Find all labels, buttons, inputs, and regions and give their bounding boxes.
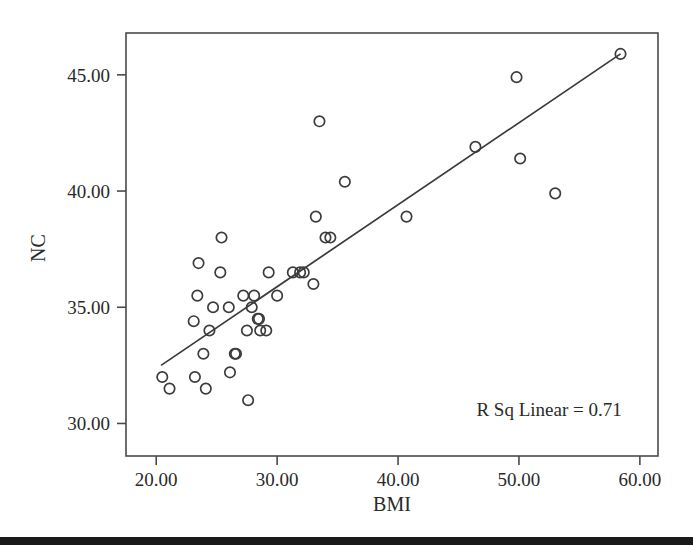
data-point xyxy=(401,211,411,221)
data-point xyxy=(216,232,226,242)
x-tick-label: 50.00 xyxy=(498,469,541,490)
data-point xyxy=(272,290,282,300)
data-point xyxy=(314,116,324,126)
y-axis-title: NC xyxy=(27,234,49,262)
data-point xyxy=(189,316,199,326)
data-point xyxy=(225,367,235,377)
data-point xyxy=(198,349,208,359)
r-squared-annotation: R Sq Linear = 0.71 xyxy=(476,399,621,420)
data-point xyxy=(157,372,167,382)
annotations-group: R Sq Linear = 0.71 xyxy=(476,399,621,420)
x-tick-label: 20.00 xyxy=(135,469,178,490)
data-point xyxy=(208,302,218,312)
data-point xyxy=(201,383,211,393)
y-axis-tick-labels: 30.0035.0040.0045.00 xyxy=(67,65,110,435)
data-point xyxy=(550,188,560,198)
y-axis-tick-marks xyxy=(117,75,126,424)
scatter-plot-figure: 20.0030.0040.0050.0060.00 30.0035.0040.0… xyxy=(0,0,693,549)
x-tick-label: 60.00 xyxy=(618,469,661,490)
y-tick-label: 40.00 xyxy=(67,181,110,202)
x-axis-tick-labels: 20.0030.0040.0050.0060.00 xyxy=(135,469,661,490)
data-points-group xyxy=(157,49,626,406)
data-point xyxy=(190,372,200,382)
chart-page: 20.0030.0040.0050.0060.00 30.0035.0040.0… xyxy=(0,0,693,549)
plot-frame xyxy=(126,33,658,456)
data-point xyxy=(511,72,521,82)
x-tick-label: 30.00 xyxy=(256,469,299,490)
y-tick-label: 45.00 xyxy=(67,65,110,86)
data-point xyxy=(215,267,225,277)
data-point xyxy=(238,290,248,300)
data-point xyxy=(311,211,321,221)
data-point xyxy=(243,395,253,405)
y-tick-label: 30.00 xyxy=(67,413,110,434)
data-point xyxy=(263,267,273,277)
x-tick-label: 40.00 xyxy=(377,469,420,490)
data-point xyxy=(515,153,525,163)
x-axis-title: BMI xyxy=(373,493,411,515)
data-point xyxy=(164,383,174,393)
data-point xyxy=(242,325,252,335)
linear-fit-line xyxy=(161,54,620,365)
data-point xyxy=(224,302,234,312)
footer-bar xyxy=(0,537,693,545)
data-point xyxy=(192,290,202,300)
fit-line-group xyxy=(161,54,620,365)
y-tick-label: 35.00 xyxy=(67,297,110,318)
data-point xyxy=(308,279,318,289)
data-point xyxy=(193,258,203,268)
data-point xyxy=(340,177,350,187)
x-axis-tick-marks xyxy=(156,456,640,465)
